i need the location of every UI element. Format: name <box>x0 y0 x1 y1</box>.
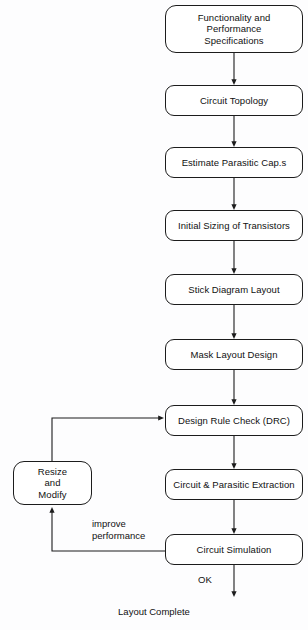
node-resize-and-modify[interactable]: Resize and Modify <box>13 461 92 505</box>
node-design-rule-check-drc[interactable]: Design Rule Check (DRC) <box>165 405 303 436</box>
node-mask-layout-design[interactable]: Mask Layout Design <box>165 339 303 370</box>
node-functionality-performance-specifications[interactable]: Functionality and Performance Specificat… <box>165 5 303 53</box>
node-stick-diagram-layout[interactable]: Stick Diagram Layout <box>165 274 303 305</box>
node-initial-sizing-of-transistors[interactable]: Initial Sizing of Transistors <box>165 210 303 241</box>
node-circuit-topology[interactable]: Circuit Topology <box>165 85 303 116</box>
node-estimate-parasitic-caps[interactable]: Estimate Parasitic Cap.s <box>165 147 303 178</box>
node-circuit-parasitic-extraction[interactable]: Circuit & Parasitic Extraction <box>165 469 303 500</box>
connector-resize-to-drc <box>52 418 161 461</box>
terminal-label-layout-complete: Layout Complete <box>0 606 308 618</box>
flowchart-canvas: Functionality and Performance Specificat… <box>0 0 308 630</box>
edge-label-ok: OK <box>198 574 212 586</box>
node-circuit-simulation[interactable]: Circuit Simulation <box>165 534 303 565</box>
edge-label-improve-performance: improve performance <box>92 518 145 541</box>
